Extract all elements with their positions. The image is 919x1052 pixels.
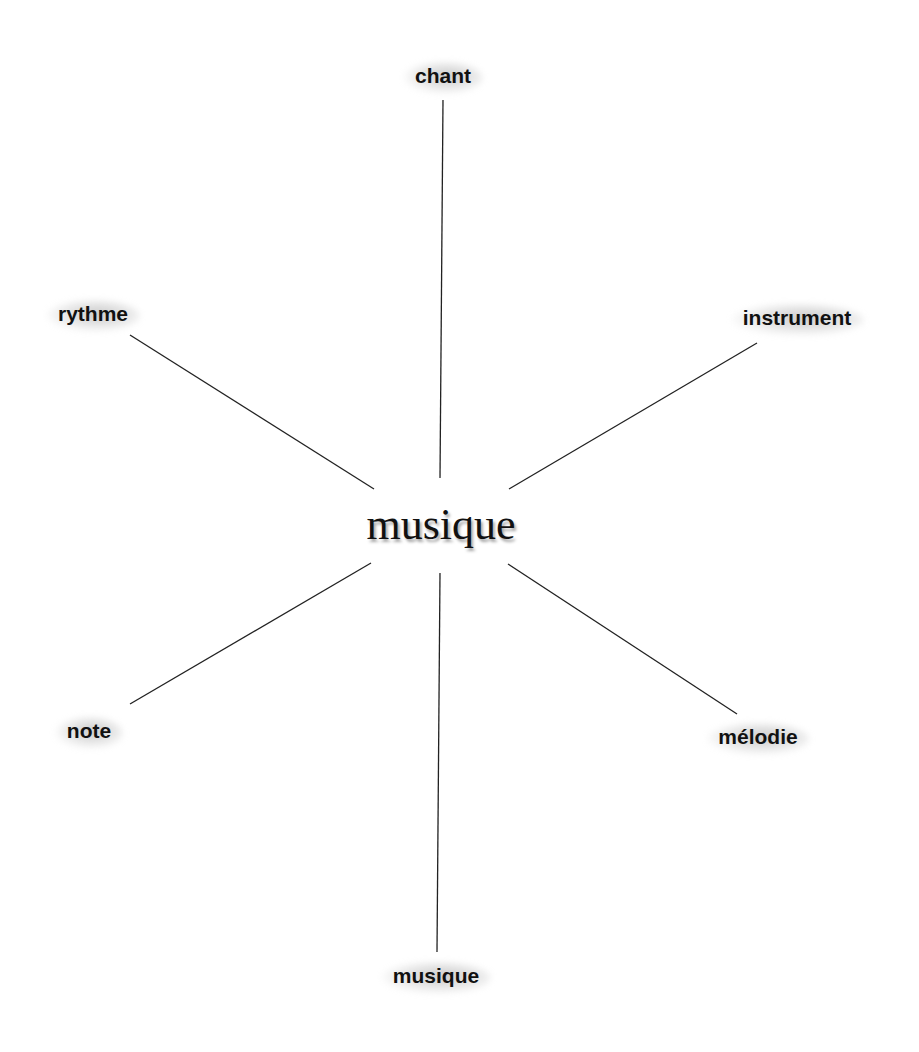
center-word: musique (366, 499, 515, 550)
node-chant: chant (397, 54, 489, 98)
node-instrument: instrument (725, 296, 870, 340)
node-musique: musique (375, 954, 497, 998)
line-musique (437, 573, 440, 952)
line-chant (440, 100, 443, 478)
node-label: mélodie (718, 725, 797, 748)
word-web-diagram: musique chant rythme instrument note mél… (0, 0, 919, 1052)
node-melodie: mélodie (700, 715, 815, 759)
line-rythme (130, 335, 374, 489)
node-label: musique (393, 964, 479, 987)
node-label: chant (415, 64, 471, 87)
line-melodie (508, 564, 737, 714)
node-label: instrument (743, 306, 852, 329)
node-rythme: rythme (40, 292, 146, 336)
node-note: note (49, 709, 129, 753)
node-label: rythme (58, 302, 128, 325)
line-note (130, 563, 371, 704)
line-instrument (509, 343, 757, 489)
node-label: note (67, 719, 111, 742)
